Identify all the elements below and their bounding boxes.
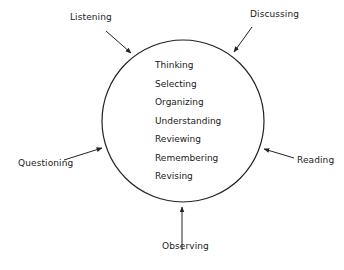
listening-arrow xyxy=(106,31,131,53)
center-item-revising: Revising xyxy=(155,171,221,190)
center-item-understanding: Understanding xyxy=(155,116,221,135)
reading-arrow xyxy=(264,149,294,158)
label-questioning: Questioning xyxy=(18,158,73,169)
center-item-selecting: Selecting xyxy=(155,79,221,98)
center-item-reviewing: Reviewing xyxy=(155,134,221,153)
label-listening: Listening xyxy=(70,12,112,23)
discussing-arrow xyxy=(234,27,252,52)
label-discussing: Discussing xyxy=(250,9,299,20)
center-item-thinking: Thinking xyxy=(155,60,221,79)
label-observing: Observing xyxy=(162,241,209,252)
label-reading: Reading xyxy=(297,155,334,166)
center-item-organizing: Organizing xyxy=(155,97,221,116)
center-item-list: Thinking Selecting Organizing Understand… xyxy=(155,60,221,190)
center-item-remembering: Remembering xyxy=(155,153,221,172)
